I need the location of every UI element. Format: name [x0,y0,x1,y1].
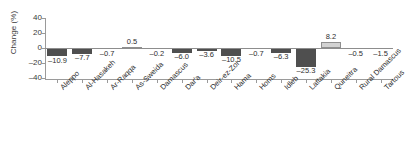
y-tick-label: 0 [18,44,42,52]
x-tick-mark [256,79,257,83]
y-tick-label: –40 [18,74,42,82]
zero-baseline [45,48,393,49]
bar-value-label: –0.7 [90,50,124,58]
x-tick-mark [82,79,83,83]
x-tick-mark [107,79,108,83]
bar-value-label: 0.5 [115,38,149,46]
x-tick-mark [306,79,307,83]
x-tick-mark [281,79,282,83]
y-tick-label: 20 [18,29,42,37]
x-tick-mark [182,79,183,83]
x-tick-mark [132,79,133,83]
x-tick-mark [207,79,208,83]
y-tick-label: –20 [18,59,42,67]
y-axis-tick-labels: 40 20 0 –20 –40 [18,0,42,150]
bar-value-label: –6.3 [264,53,298,61]
x-tick-mark [381,79,382,83]
x-tick-mark [356,79,357,83]
y-tick-label: 40 [18,14,42,22]
x-tick-mark [157,79,158,83]
bar-lattakia [296,48,316,67]
bar-value-label: 8.2 [314,33,348,41]
x-tick-mark [57,79,58,83]
x-tick-mark [331,79,332,83]
y-axis-title: Change (%) [9,0,18,68]
x-tick-mark [231,79,232,83]
